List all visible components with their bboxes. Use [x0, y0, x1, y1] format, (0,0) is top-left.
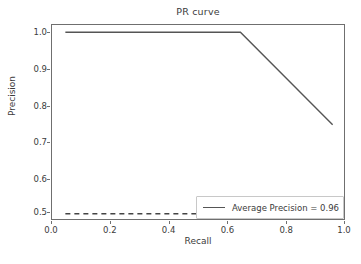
- y-tick-label: 1.0: [21, 27, 47, 37]
- y-tick-label: 0.8: [21, 101, 47, 111]
- x-tick-mark: [227, 221, 228, 224]
- x-tick-mark: [110, 221, 111, 224]
- plot-area: [51, 24, 345, 220]
- legend-entry-label: Average Precision = 0.96: [232, 203, 339, 213]
- x-tick-label: 1.0: [327, 225, 361, 235]
- y-tick-mark: [47, 106, 50, 107]
- x-tick-mark: [169, 221, 170, 224]
- x-axis-label: Recall: [51, 236, 345, 246]
- y-axis-tick-labels: 1.0 0.9 0.8 0.7 0.6 0.5: [17, 24, 47, 220]
- x-axis-tick-labels: 0.0 0.2 0.4 0.6 0.8 1.0: [51, 221, 345, 237]
- y-tick-label: 0.5: [21, 207, 47, 217]
- y-axis-label: Precision: [7, 46, 17, 146]
- x-tick-label: 0.2: [93, 225, 127, 235]
- x-tick-mark: [286, 221, 287, 224]
- pr-curve-line: [65, 32, 332, 125]
- x-tick-mark: [51, 221, 52, 224]
- plot-canvas: [52, 25, 346, 221]
- legend: Average Precision = 0.96: [196, 196, 344, 219]
- x-tick-label: 0.6: [210, 225, 244, 235]
- x-tick-label: 0.4: [152, 225, 186, 235]
- y-tick-mark: [47, 179, 50, 180]
- y-tick-label: 0.9: [21, 64, 47, 74]
- y-tick-mark: [47, 142, 50, 143]
- y-tick-mark: [47, 32, 50, 33]
- y-tick-mark: [47, 69, 50, 70]
- y-tick-label: 0.6: [21, 174, 47, 184]
- pr-curve-series: [65, 32, 332, 125]
- x-tick-mark: [344, 221, 345, 224]
- chart-title: PR curve: [51, 6, 345, 17]
- y-tick-mark: [47, 212, 50, 213]
- x-tick-label: 0.0: [34, 225, 68, 235]
- y-tick-label: 0.7: [21, 137, 47, 147]
- x-tick-label: 0.8: [269, 225, 303, 235]
- legend-swatch-icon: [203, 207, 225, 208]
- pr-curve-figure: PR curve Precision 1.0 0.9 0.8 0.7 0.6 0…: [0, 0, 361, 264]
